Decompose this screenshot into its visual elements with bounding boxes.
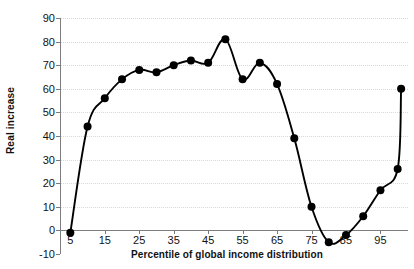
y-axis-tick-label: 50: [43, 106, 55, 118]
data-series-line: [60, 18, 408, 254]
y-axis-tick-label: 10: [43, 201, 55, 213]
y-axis-tick-label: 70: [43, 59, 55, 71]
data-point-marker: [84, 123, 92, 131]
chart-container: Real increase -100102030405060708090 515…: [0, 0, 414, 269]
data-point-marker: [152, 68, 160, 76]
data-point-marker: [118, 75, 126, 83]
data-point-marker: [204, 59, 212, 67]
data-point-marker: [308, 203, 316, 211]
data-point-marker: [239, 75, 247, 83]
data-point-marker: [290, 134, 298, 142]
data-point-marker: [397, 85, 405, 93]
y-axis-tick-label: 30: [43, 154, 55, 166]
y-axis-title-text: Real increase: [6, 86, 17, 153]
data-point-marker: [101, 94, 109, 102]
data-point-marker: [376, 186, 384, 194]
data-point-marker: [187, 56, 195, 64]
data-point-marker: [359, 212, 367, 220]
y-axis-tick-label: 0: [49, 224, 55, 236]
y-axis-tick-label: 40: [43, 130, 55, 142]
y-axis-tick-label: 20: [43, 177, 55, 189]
data-point-marker: [273, 80, 281, 88]
data-point-marker: [325, 238, 333, 246]
y-axis-tick-label: 90: [43, 12, 55, 24]
data-point-marker: [221, 35, 229, 43]
y-axis-tick-label: 60: [43, 83, 55, 95]
data-point-marker: [135, 66, 143, 74]
y-axis-tick-label: 80: [43, 36, 55, 48]
data-point-marker: [170, 61, 178, 69]
series-path: [70, 39, 401, 244]
plot-area: -100102030405060708090 51525354555657585…: [60, 18, 408, 254]
y-axis-title: Real increase: [0, 0, 22, 240]
data-point-marker: [342, 231, 350, 239]
data-point-marker: [66, 229, 74, 237]
data-point-marker: [394, 165, 402, 173]
data-point-marker: [256, 59, 264, 67]
x-axis-title: Percentile of global income distribution: [40, 249, 414, 260]
